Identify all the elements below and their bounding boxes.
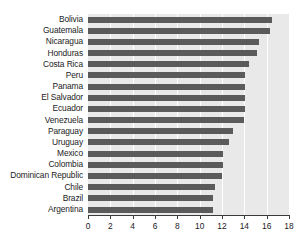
y-axis-tick-label: Nicaragua xyxy=(0,36,86,47)
bar-row xyxy=(88,25,289,36)
y-axis-tick-label: Guatemala xyxy=(0,25,86,36)
y-axis-tick-label: Costa Rica xyxy=(0,59,86,70)
y-axis-tick-label: El Salvador xyxy=(0,92,86,103)
bar-row xyxy=(88,14,289,25)
x-axis-tick-label: 14 xyxy=(240,221,249,232)
bar-row xyxy=(88,36,289,47)
y-axis-tick-label: Paraguay xyxy=(0,126,86,137)
bar xyxy=(88,72,245,78)
bar xyxy=(88,117,244,123)
bar xyxy=(88,195,213,201)
bar xyxy=(88,28,270,34)
bar xyxy=(88,84,245,90)
bar-row xyxy=(88,103,289,114)
bar-row xyxy=(88,193,289,204)
bar-row xyxy=(88,59,289,70)
x-axis-tick xyxy=(177,215,178,219)
x-axis-tick xyxy=(267,215,268,219)
bar xyxy=(88,151,223,157)
x-axis-tick-label: 2 xyxy=(108,221,113,232)
x-axis-tick-label: 16 xyxy=(262,221,271,232)
y-axis-tick-label: Colombia xyxy=(0,159,86,170)
bar xyxy=(88,95,245,101)
bar-row xyxy=(88,159,289,170)
x-axis-tick-label: 6 xyxy=(153,221,158,232)
x-axis-tick-label: 4 xyxy=(130,221,135,232)
y-axis-tick-label: Bolivia xyxy=(0,14,86,25)
x-axis-tick xyxy=(200,215,201,219)
x-axis-tick-label: 18 xyxy=(284,221,293,232)
bar xyxy=(88,61,249,67)
bar xyxy=(88,207,213,213)
y-axis-tick-label: Brazil xyxy=(0,193,86,204)
y-axis-tick-label: Peru xyxy=(0,70,86,81)
x-axis-tick xyxy=(244,215,245,219)
bar-row xyxy=(88,48,289,59)
x-axis-tick-label: 10 xyxy=(195,221,204,232)
bar xyxy=(88,184,215,190)
x-axis-tick xyxy=(110,215,111,219)
x-axis-tick-label: 12 xyxy=(217,221,226,232)
x-axis-tick xyxy=(222,215,223,219)
y-axis-tick-label: Mexico xyxy=(0,148,86,159)
bar-row xyxy=(88,170,289,181)
chart-title xyxy=(0,0,302,2)
x-axis-tick-label: 0 xyxy=(86,221,91,232)
x-axis-tick-label: 8 xyxy=(175,221,180,232)
bar-row xyxy=(88,148,289,159)
bar xyxy=(88,50,257,56)
y-axis-tick-label: Ecuador xyxy=(0,103,86,114)
y-axis-tick-label: Chile xyxy=(0,182,86,193)
x-axis-tick xyxy=(88,215,89,219)
x-axis-tick-labels: 024681012141618 xyxy=(88,221,290,233)
bar-row xyxy=(88,70,289,81)
y-axis-tick-label: Dominican Republic xyxy=(0,170,86,181)
bar xyxy=(88,39,259,45)
bar xyxy=(88,128,233,134)
bars-layer xyxy=(88,14,289,215)
bar xyxy=(88,173,222,179)
bar-row xyxy=(88,115,289,126)
bar-row xyxy=(88,126,289,137)
bar-row xyxy=(88,81,289,92)
y-axis-category-labels: BoliviaGuatemalaNicaraguaHondurasCosta R… xyxy=(0,14,86,215)
bar xyxy=(88,17,272,23)
x-axis-ticks xyxy=(88,215,290,220)
x-axis-tick xyxy=(133,215,134,219)
bar xyxy=(88,162,223,168)
y-axis-tick-label: Uruguay xyxy=(0,137,86,148)
x-axis-tick xyxy=(155,215,156,219)
bar-row xyxy=(88,92,289,103)
bar-row xyxy=(88,182,289,193)
plot-area xyxy=(88,14,289,215)
bar xyxy=(88,106,245,112)
y-axis-tick-label: Honduras xyxy=(0,48,86,59)
y-axis-tick-label: Venezuela xyxy=(0,115,86,126)
y-axis-tick-label: Panama xyxy=(0,81,86,92)
y-axis-tick-label: Argentina xyxy=(0,204,86,215)
bar xyxy=(88,139,229,145)
bar-row xyxy=(88,137,289,148)
horizontal-bar-chart: BoliviaGuatemalaNicaraguaHondurasCosta R… xyxy=(0,0,302,242)
x-axis-tick xyxy=(289,215,290,219)
bar-row xyxy=(88,204,289,215)
